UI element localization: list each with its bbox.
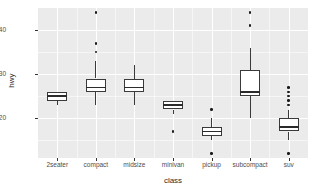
whisker-upper — [95, 61, 96, 79]
outlier-point — [210, 108, 213, 111]
x-tick-label-pickup: pickup — [202, 162, 221, 169]
outlier-point — [287, 86, 290, 89]
outlier-point — [95, 51, 98, 54]
x-tick-label-2seater: 2seater — [46, 162, 68, 169]
boxplot-2seater — [47, 8, 67, 158]
whisker-lower — [95, 92, 96, 105]
x-axis-title: class — [38, 176, 308, 185]
whisker-lower — [57, 101, 58, 105]
boxplot-subcompact — [240, 8, 260, 158]
gridline-minor-x — [115, 8, 116, 158]
median-line — [279, 126, 299, 128]
gridline-minor-x — [192, 8, 193, 158]
whisker-upper — [250, 48, 251, 70]
median-line — [202, 131, 222, 133]
outlier-point — [95, 42, 98, 45]
whisker-lower — [211, 136, 212, 140]
outlier-point — [172, 130, 175, 133]
whisker-lower — [288, 132, 289, 141]
y-tick-mark — [35, 118, 38, 119]
whisker-upper — [211, 118, 212, 127]
median-line — [240, 91, 260, 93]
median-line — [124, 87, 144, 89]
outlier-point — [287, 104, 290, 107]
whisker-lower — [173, 110, 174, 114]
y-tick-label: 40 — [0, 27, 6, 34]
outlier-point — [95, 11, 98, 14]
gridline-minor-x — [231, 8, 232, 158]
boxplot-midsize — [124, 8, 144, 158]
outlier-point — [287, 152, 290, 155]
x-tick-label-subcompact: subcompact — [233, 162, 268, 169]
outlier-point — [249, 11, 252, 14]
boxplot-compact — [86, 8, 106, 158]
outlier-point — [249, 24, 252, 27]
x-tick-label-suv: suv — [284, 162, 294, 169]
boxplot-suv — [279, 8, 299, 158]
boxplot-figure: 2030402seatercompactmidsizeminivanpickup… — [0, 0, 318, 192]
whisker-lower — [250, 96, 251, 118]
whisker-upper — [134, 65, 135, 78]
outlier-point — [287, 99, 290, 102]
plot-panel — [38, 8, 308, 158]
y-tick-label: 20 — [0, 115, 6, 122]
whisker-lower — [134, 92, 135, 105]
box-iqr — [124, 79, 144, 92]
y-tick-mark — [35, 74, 38, 75]
y-tick-label: 30 — [0, 71, 6, 78]
outlier-point — [287, 95, 290, 98]
box-iqr — [279, 118, 299, 131]
y-axis-title: hwy — [7, 61, 16, 101]
x-tick-label-compact: compact — [84, 162, 109, 169]
boxplot-pickup — [202, 8, 222, 158]
box-iqr — [86, 79, 106, 92]
x-tick-label-midsize: midsize — [123, 162, 145, 169]
outlier-point — [287, 91, 290, 94]
gridline-minor-x — [77, 8, 78, 158]
boxplot-minivan — [163, 8, 183, 158]
median-line — [86, 87, 106, 89]
whisker-upper — [288, 110, 289, 119]
median-line — [163, 104, 183, 106]
x-tick-label-minivan: minivan — [162, 162, 184, 169]
gridline-minor-x — [154, 8, 155, 158]
median-line — [47, 95, 67, 97]
gridline-minor-x — [269, 8, 270, 158]
y-tick-mark — [35, 30, 38, 31]
outlier-point — [210, 152, 213, 155]
